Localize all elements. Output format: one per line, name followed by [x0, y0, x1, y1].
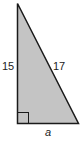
- hypotenuse-label: 17: [53, 60, 65, 72]
- base-label: a: [45, 126, 51, 138]
- triangle: [18, 4, 79, 124]
- left-leg-label: 15: [2, 60, 14, 72]
- right-triangle-diagram: 15 17 a: [0, 0, 80, 141]
